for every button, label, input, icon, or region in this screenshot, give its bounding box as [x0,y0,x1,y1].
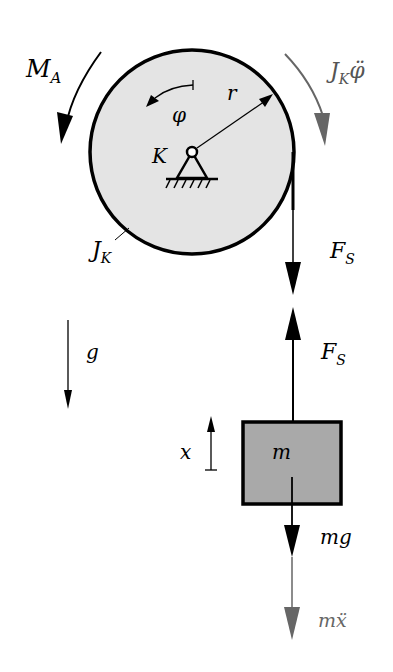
pivot-label: K [151,144,168,168]
rope-force-bottom-label: FS [320,339,346,368]
coordinate-arrow-icon [205,416,217,470]
coordinate-label: x [180,440,191,464]
gravity-label: g [86,340,99,364]
inertia-leader-line [115,228,129,240]
radius-label: r [227,81,238,105]
angle-label: φ [172,103,186,127]
mass-label: m [272,440,291,464]
inertia-force-arrow-icon [284,557,300,640]
inertia-force-label: mẍ [318,609,347,631]
gravity-arrow-icon [64,320,72,409]
disk-inertia-label: JK [88,237,113,266]
weight-label: mg [320,525,352,549]
inertia-moment-label: JKφ̈ [326,58,365,87]
rope-force-up-arrow-icon [285,307,301,422]
free-body-diagram: MA JKφ̈ φ r K JK FS FS g x m mg mẍ [0,0,393,672]
rope-force-top-label: FS [329,238,355,267]
moment-label: MA [25,55,62,87]
